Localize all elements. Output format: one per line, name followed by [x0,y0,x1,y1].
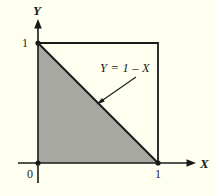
y-axis-label: Y [33,4,41,17]
x-axis-arrowhead-icon [187,159,197,167]
y-axis-tick-label-1: 1 [22,37,28,49]
origin-label: 0 [27,168,33,180]
x-axis-tick-label-1: 1 [155,168,161,180]
figure-unit-square-diagram: Y X 1 1 0 Y = 1 – X [0,0,215,196]
annotation-leader-line [100,77,136,102]
y-axis-arrowhead-icon [34,19,42,29]
x-axis-label: X [200,157,209,170]
point-marker-0-1 [35,40,40,45]
point-marker-origin [35,160,40,165]
equation-annotation-label: Y = 1 – X [100,62,150,75]
point-marker-1-0 [155,160,160,165]
